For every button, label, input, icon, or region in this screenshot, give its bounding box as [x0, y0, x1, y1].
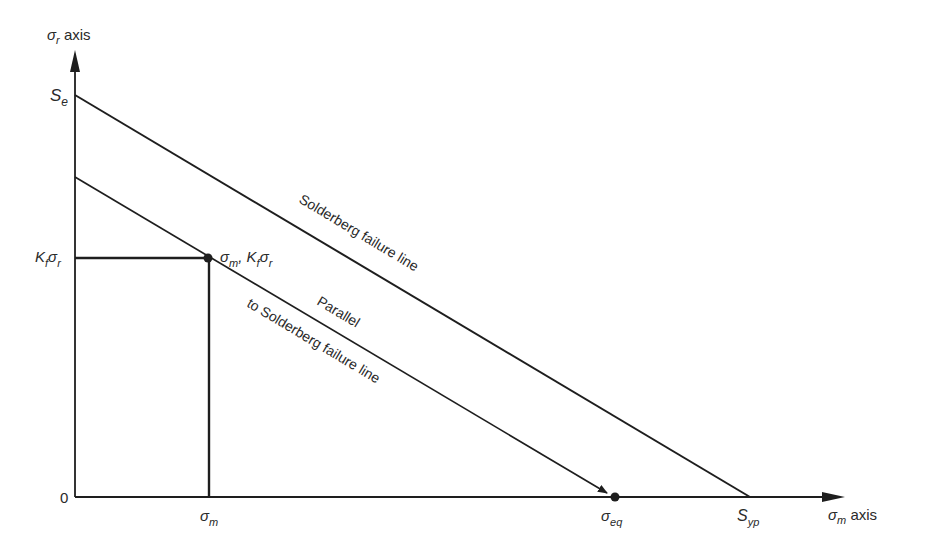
kf-sigma-r-label: Kfσr — [35, 248, 62, 269]
y-axis-title: σr axis — [47, 26, 91, 46]
solderberg-line-label: Solderberg failure line — [296, 191, 421, 275]
parallel-line-label-1: Parallel — [314, 293, 362, 331]
x-axis-title: σm axis — [828, 506, 877, 526]
solderberg-diagram: σr axis Se Kfσr σm, Kfσr 0 σm σeq Syp σm… — [0, 0, 929, 545]
sigma-eq-point-marker — [611, 493, 620, 502]
solderberg-failure-line — [75, 95, 750, 497]
operating-point-label: σm, Kfσr — [220, 248, 274, 269]
y-axis-arrow-icon — [70, 50, 80, 72]
origin-label: 0 — [60, 489, 68, 506]
se-label: Se — [50, 86, 68, 109]
x-axis-arrow-icon — [822, 492, 845, 502]
parallel-line-label-2: to Solderberg failure line — [244, 295, 383, 387]
sigma-m-label: σm — [200, 507, 218, 528]
sigma-eq-label: σeq — [601, 507, 623, 528]
syp-label: Syp — [737, 507, 759, 528]
operating-point-marker — [204, 254, 213, 263]
